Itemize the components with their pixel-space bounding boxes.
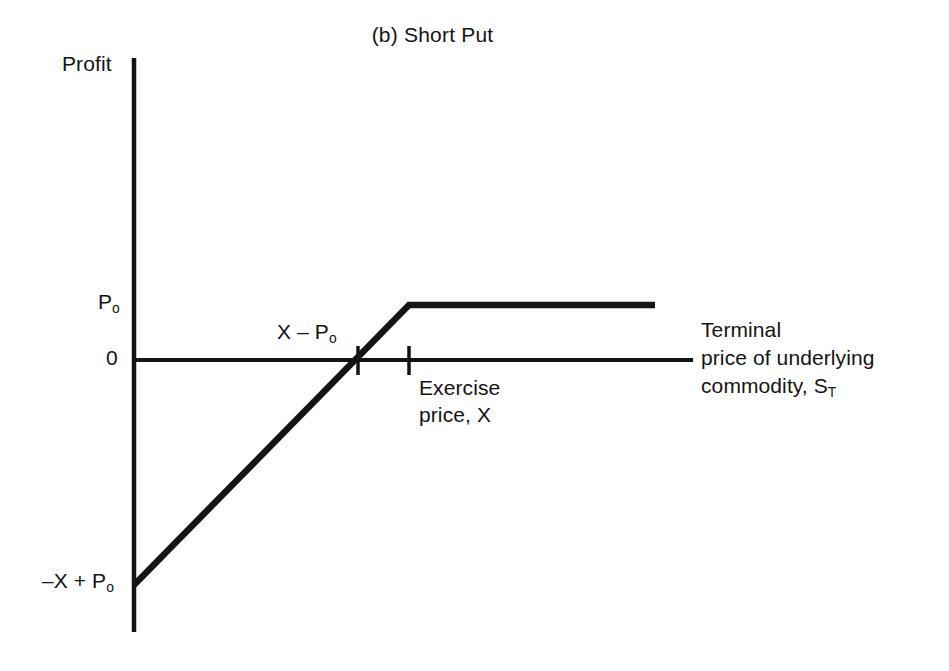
x-axis-title-line-3: commodity, S: [701, 374, 828, 397]
chart-title: (b) Short Put: [0, 24, 949, 45]
premium-label-text: P: [98, 290, 112, 313]
y-tick-label-zero: 0: [106, 347, 118, 368]
exercise-price-line-1: Exercise: [419, 376, 500, 399]
x-axis-title: Terminalprice of underlyingcommodity, ST: [701, 316, 875, 402]
exercise-price-label: Exerciseprice, X: [419, 374, 500, 428]
min-profit-label-text: –X + P: [42, 569, 106, 592]
breakeven-label: X – Po: [277, 321, 337, 342]
y-axis-title: Profit: [62, 53, 112, 74]
y-tick-label-premium: Po: [98, 291, 120, 312]
x-axis-title-line-2: price of underlying: [701, 346, 875, 369]
breakeven-label-subscript: o: [329, 330, 337, 346]
figure-canvas: (b) Short Put Profit Po 0 X – Po Exercis…: [0, 0, 949, 671]
chart-title-text: (b) Short Put: [372, 24, 494, 45]
exercise-price-line-2: price, X: [419, 403, 491, 426]
x-axis-title-subscript: T: [828, 384, 836, 400]
min-profit-label-subscript: o: [106, 579, 114, 595]
breakeven-label-text: X – P: [277, 320, 329, 343]
x-axis-title-line-1: Terminal: [701, 318, 781, 341]
min-profit-label: –X + Po: [42, 570, 114, 591]
payoff-line: [134, 305, 655, 585]
premium-label-subscript: o: [112, 300, 120, 316]
